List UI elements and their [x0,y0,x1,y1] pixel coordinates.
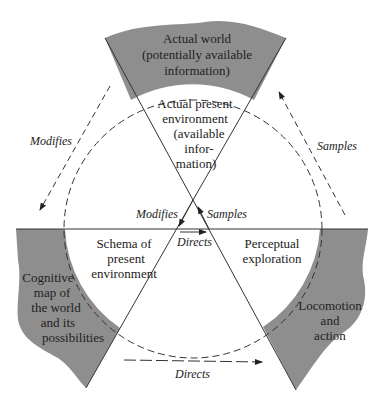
svg-text:present: present [107,251,145,266]
svg-text:environment: environment [162,111,228,126]
schema-present-environment-label: Schema of present environment [91,236,157,281]
inner-modifies-label: Modifies [135,207,178,221]
svg-text:map of: map of [34,285,71,300]
outer-samples-arrow [279,92,345,215]
svg-text:infor-: infor- [184,141,213,156]
svg-text:action: action [314,328,346,343]
svg-text:Actual present: Actual present [157,96,233,111]
perceptual-cycle-diagram: Actual world (potentially available info… [0,0,384,406]
svg-text:Locomotion: Locomotion [298,298,362,313]
svg-text:(potentially available: (potentially available [142,47,252,62]
inner-samples-label: Samples [207,207,247,221]
actual-present-environment-label: Actual present environment (available in… [157,96,233,171]
outer-samples-label: Samples [317,139,357,153]
outer-modifies-label: Modifies [29,134,72,148]
svg-text:environment: environment [91,266,157,281]
svg-text:Cognitive: Cognitive [22,270,74,285]
svg-text:Perceptual: Perceptual [245,236,300,251]
svg-text:information): information) [164,63,230,78]
svg-text:and its: and its [41,315,75,330]
inner-modifies-arrow [179,200,193,226]
svg-text:Actual world: Actual world [163,31,232,46]
perceptual-exploration-label: Perceptual exploration [242,236,302,266]
svg-text:Schema of: Schema of [96,236,152,251]
svg-text:and: and [321,313,340,328]
svg-text:mation): mation) [176,156,216,171]
divider-line-bottom-left [86,200,193,388]
svg-text:possibilities: possibilities [42,330,104,345]
inner-directs-label: Directs [176,235,212,249]
svg-text:the world: the world [31,300,81,315]
svg-text:(available: (available [173,126,224,141]
svg-text:exploration: exploration [242,251,302,266]
outer-directs-label: Directs [174,367,210,381]
outer-directs-arrow [124,360,262,362]
outer-modifies-arrow [40,86,110,210]
